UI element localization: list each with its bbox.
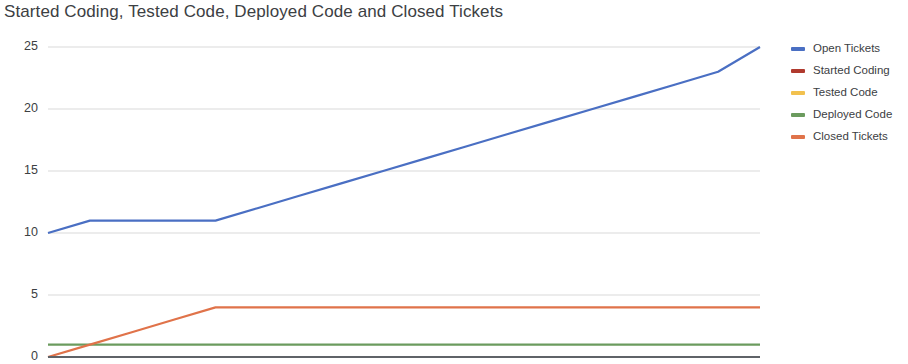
- legend-swatch-icon: [791, 91, 805, 95]
- line-chart: Started Coding, Tested Code, Deployed Co…: [0, 0, 908, 364]
- y-axis-tick-label: 10: [8, 226, 38, 239]
- legend-item-label: Open Tickets: [813, 43, 880, 55]
- gridlines-group: [48, 47, 760, 295]
- legend-item-label: Closed Tickets: [813, 131, 888, 143]
- legend-swatch-icon: [791, 69, 805, 73]
- series-line: [48, 47, 760, 233]
- chart-legend: Open TicketsStarted CodingTested CodeDep…: [791, 38, 908, 148]
- legend-item-label: Started Coding: [813, 65, 890, 77]
- legend-item[interactable]: Deployed Code: [791, 104, 908, 126]
- legend-swatch-icon: [791, 135, 805, 139]
- y-axis-tick-label: 20: [8, 102, 38, 115]
- legend-item[interactable]: Tested Code: [791, 82, 908, 104]
- chart-plot-area: [0, 0, 908, 364]
- legend-item[interactable]: Open Tickets: [791, 38, 908, 60]
- series-line: [48, 307, 760, 357]
- y-axis-tick-label: 25: [8, 40, 38, 53]
- legend-swatch-icon: [791, 113, 805, 117]
- legend-item-label: Tested Code: [813, 87, 878, 99]
- y-axis-tick-label: 15: [8, 164, 38, 177]
- y-axis-tick-label: 0: [8, 350, 38, 363]
- series-group: [48, 47, 760, 357]
- legend-item-label: Deployed Code: [813, 109, 892, 121]
- legend-item[interactable]: Closed Tickets: [791, 126, 908, 148]
- legend-item[interactable]: Started Coding: [791, 60, 908, 82]
- legend-swatch-icon: [791, 47, 805, 51]
- y-axis-tick-label: 5: [8, 288, 38, 301]
